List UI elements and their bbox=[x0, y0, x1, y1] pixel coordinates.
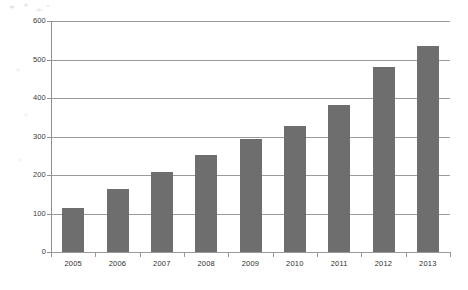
x-tick-mark-end bbox=[450, 252, 451, 257]
x-tick-label-2008: 2008 bbox=[183, 259, 229, 268]
bar-2005 bbox=[62, 208, 84, 252]
gridline-500 bbox=[51, 60, 450, 61]
x-tick-mark-7 bbox=[361, 252, 362, 257]
x-tick-label-2012: 2012 bbox=[361, 259, 407, 268]
y-tick-label-0: 0 bbox=[12, 248, 46, 256]
bar-2006 bbox=[107, 189, 129, 252]
x-tick-label-2010: 2010 bbox=[272, 259, 318, 268]
x-tick-label-2005: 2005 bbox=[50, 259, 96, 268]
x-tick-label-2013: 2013 bbox=[405, 259, 451, 268]
bar-2010 bbox=[284, 126, 306, 252]
gridline-0 bbox=[51, 252, 450, 253]
bar-2007 bbox=[151, 172, 173, 252]
y-tick-label-300: 300 bbox=[12, 133, 46, 141]
bar-2009 bbox=[240, 139, 262, 252]
bar-2012 bbox=[373, 67, 395, 252]
x-tick-mark-2 bbox=[140, 252, 141, 257]
y-tick-label-200: 200 bbox=[12, 171, 46, 179]
bar-2013 bbox=[417, 46, 439, 252]
y-tick-label-600: 600 bbox=[12, 17, 46, 25]
y-axis-tick-labels: 0100200300400500600 bbox=[8, 21, 46, 252]
x-tick-mark-6 bbox=[317, 252, 318, 257]
bar-2011 bbox=[328, 105, 350, 252]
x-tick-mark-4 bbox=[228, 252, 229, 257]
y-tick-label-500: 500 bbox=[12, 56, 46, 64]
x-tick-label-2006: 2006 bbox=[95, 259, 141, 268]
x-tick-label-2011: 2011 bbox=[316, 259, 362, 268]
x-tick-mark-0 bbox=[51, 252, 52, 257]
bar-2008 bbox=[195, 155, 217, 252]
x-tick-mark-1 bbox=[95, 252, 96, 257]
x-tick-label-2009: 2009 bbox=[228, 259, 274, 268]
y-tick-label-400: 400 bbox=[12, 94, 46, 102]
y-tick-label-100: 100 bbox=[12, 210, 46, 218]
x-tick-mark-8 bbox=[406, 252, 407, 257]
plot-area bbox=[51, 21, 450, 252]
gridline-600 bbox=[51, 21, 450, 22]
x-tick-label-2007: 2007 bbox=[139, 259, 185, 268]
x-tick-mark-3 bbox=[184, 252, 185, 257]
x-tick-mark-5 bbox=[273, 252, 274, 257]
bar-chart-figure: 0100200300400500600 20052006200720082009… bbox=[0, 0, 468, 290]
